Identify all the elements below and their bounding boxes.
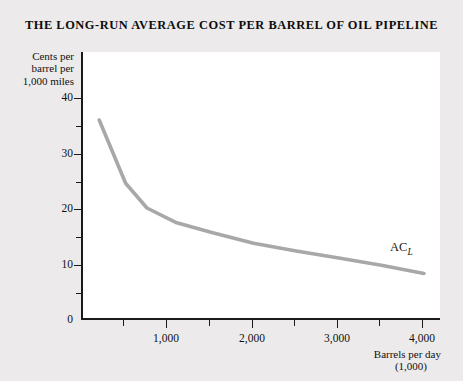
x-tick-3500: [379, 320, 380, 326]
x-tick-label-4000: 4,000: [392, 332, 452, 344]
x-axis-title-line-2: (1,000): [374, 360, 441, 372]
x-axis-title: Barrels per day (1,000): [374, 348, 441, 373]
y-axis-title-line-2: barrel per: [32, 62, 74, 74]
curve-label-subscript: L: [407, 247, 412, 257]
y-tick-label-40: 40: [33, 91, 73, 103]
y-axis-title-line-1: Cents per: [32, 50, 74, 62]
plot-area: [81, 52, 440, 320]
y-tick-label-10: 10: [33, 258, 73, 270]
x-tick-1500: [209, 320, 210, 326]
x-tick-3000: [337, 320, 338, 328]
y-tick-label-20: 20: [33, 202, 73, 214]
x-tick-1000: [166, 320, 167, 328]
y-tick-label-30: 30: [33, 147, 73, 159]
y-axis-title-line-3: 1,000 miles: [23, 75, 74, 87]
curve-label-base: AC: [390, 240, 407, 254]
x-axis-title-line-1: Barrels per day: [374, 348, 441, 360]
curve-label-ac-long-run: ACL: [390, 240, 413, 257]
x-tick-2500: [294, 320, 295, 326]
y-tick-label-0: 0: [33, 313, 73, 325]
chart-page: THE LONG-RUN AVERAGE COST PER BARREL OF …: [0, 0, 463, 381]
x-tick-4000: [422, 320, 423, 328]
x-tick-500: [123, 320, 124, 326]
chart-title: THE LONG-RUN AVERAGE COST PER BARREL OF …: [0, 18, 463, 33]
x-tick-2000: [252, 320, 253, 328]
long-run-average-cost-curve: [99, 120, 424, 273]
x-tick-label-3000: 3,000: [307, 332, 367, 344]
x-tick-label-1000: 1,000: [136, 332, 196, 344]
y-axis-title: Cents per barrel per 1,000 miles: [2, 50, 74, 87]
cost-curve-svg: [83, 52, 442, 320]
x-tick-label-2000: 2,000: [222, 332, 282, 344]
